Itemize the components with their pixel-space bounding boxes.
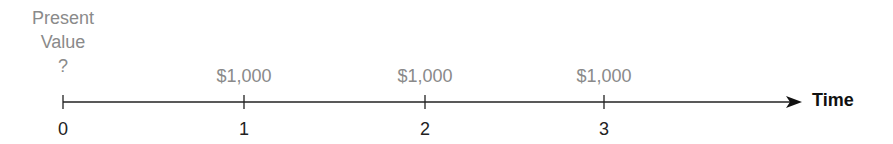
cash-flow-2: $1,000: [375, 66, 475, 87]
time-axis-label: Time: [812, 90, 854, 111]
pv-line-1: Present: [0, 6, 126, 30]
period-label-2: 2: [405, 119, 445, 140]
pv-line-2: Value: [0, 30, 126, 54]
cash-flow-1: $1,000: [194, 66, 294, 87]
period-label-1: 1: [224, 119, 264, 140]
cash-flow-3: $1,000: [554, 66, 654, 87]
period-label-3: 3: [584, 119, 624, 140]
pv-line-3: ?: [0, 54, 126, 78]
present-value-label: Present Value ?: [0, 6, 126, 78]
period-label-0: 0: [43, 119, 83, 140]
